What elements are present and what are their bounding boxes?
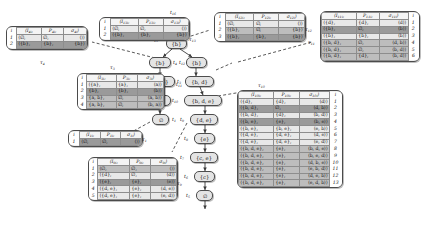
table-row[interactable]: ⟨{b},{b},⟨b⟩⟩3	[322, 33, 419, 40]
table-row[interactable]: 1⟨∅,∅,⟨⟩⟩	[89, 165, 177, 172]
table-row[interactable]: ⟨{b, d},∅,⟨d, b⟩⟩2	[239, 105, 342, 112]
tree-node-t6[interactable]: {c}	[194, 171, 215, 182]
table-caption-tau4: τ4	[40, 60, 45, 66]
header-P: P4i,	[42, 28, 64, 35]
table-row[interactable]: ⟨{b, d},{d},⟨b, d⟩⟩3	[239, 112, 342, 119]
table-row[interactable]: 3⟨{e},{e},⟨e⟩⟩	[89, 179, 177, 186]
table-row[interactable]: 3{a, b},∅,⟨a, b⟩⟩	[78, 95, 164, 102]
cell-P: {e},	[274, 119, 299, 126]
row-index: 3	[408, 33, 418, 40]
table-row[interactable]: ⟨{d},{d},⟨d⟩⟩1	[239, 98, 342, 105]
cell-sigma: {b}⟩	[64, 41, 87, 48]
cell-P: ∅,	[116, 95, 137, 102]
table-row[interactable]: 3⟨{b},{b},{b}⟩	[215, 34, 305, 41]
cell-I: ⟨{d},	[98, 172, 130, 179]
header-index: i	[89, 159, 98, 166]
table-tau11: ⟨I11i,P11i,σ11i⟩i⟨{d},{d},⟨d⟩⟩1⟨{b},∅,⟨b…	[320, 11, 420, 62]
cell-sigma: {b}⟩	[163, 32, 188, 39]
row-index: 2	[89, 172, 98, 179]
cell-I: ⟨{b},	[111, 32, 139, 39]
cell-P: {d},	[274, 112, 299, 119]
cell-I: ⟨{b, d, e},	[239, 153, 274, 160]
cell-sigma: ⟨d, e⟩⟩	[150, 186, 176, 193]
tree-node-t1[interactable]: ∅	[152, 114, 169, 125]
table-row[interactable]: ⟨{d, e},{d, e},⟨e, d⟩⟩7	[239, 139, 342, 146]
cell-I: ⟨{b, d, e},	[239, 166, 274, 173]
tree-node-t10[interactable]: {b, d, e}	[184, 95, 222, 106]
cell-I: ⟨{d, e},	[98, 186, 130, 193]
cell-I: ⟨∅,	[98, 165, 130, 172]
cell-sigma: ⟨b, d, e⟩⟩	[299, 146, 329, 153]
table-row[interactable]: ⟨{b, e},{e},⟨b, e⟩⟩4	[239, 119, 342, 126]
cell-sigma: ⟨b, e, d⟩⟩	[299, 153, 329, 160]
cell-I: ⟨{d, e},	[239, 139, 274, 146]
cell-sigma: ⟨⟩⟩	[150, 165, 176, 172]
cell-I: ⟨{b, e},	[239, 126, 274, 133]
cell-P: ∅,	[274, 105, 299, 112]
row-index: 4	[408, 40, 418, 47]
tree-node-t9[interactable]: {d, e}	[190, 114, 218, 125]
table-row[interactable]: 1⟨∅,∅,⟨⟩⟩	[215, 20, 305, 27]
row-index: 4	[329, 119, 341, 126]
table-tau3: i⟨I3i,P3i,σ3i⟩1⟨{a},{a},⟨a⟩⟩2{b},{b},⟨b⟩…	[77, 73, 165, 110]
table-row[interactable]: ⟨{b, d, e},{e},⟨b, d, e⟩⟩8	[239, 146, 342, 153]
tree-node-t11[interactable]: {b, d}	[185, 76, 214, 87]
tree-node-t1-label: ∅	[159, 117, 163, 123]
tree-node-t5[interactable]: ∅	[196, 190, 213, 201]
header-index: i	[100, 19, 111, 26]
table-row[interactable]: 4{a, b},∅,⟨b, a⟩⟩	[78, 102, 164, 109]
cell-I: ⟨{b},	[226, 34, 254, 41]
table-row[interactable]: ⟨{b, d, e},{e},⟨e, d, b⟩⟩13	[239, 180, 342, 187]
node-tag-t8: t8	[184, 136, 188, 142]
table-row[interactable]: ⟨{b, d},∅,⟨d, b⟩⟩4	[322, 40, 419, 47]
table-header-row: i⟨I4i,P4i,σ4i⟩	[7, 28, 87, 35]
row-index: 1	[78, 81, 87, 88]
table-row[interactable]: ⟨{b, d},∅,⟨b, d⟩⟩5	[322, 47, 419, 54]
table-row[interactable]: 4⟨{d, e},{e},⟨d, e⟩⟩	[89, 186, 177, 193]
header-P: P13i,	[138, 19, 163, 26]
row-index: 4	[78, 102, 87, 109]
table-row[interactable]: 1⟨∅,∅,⟨⟩⟩	[7, 34, 87, 41]
tree-node-t7[interactable]: {c, e}	[190, 152, 218, 163]
tree-node-t8[interactable]: {e}	[194, 133, 215, 144]
cell-P: {b},	[42, 41, 64, 48]
cell-sigma: ⟨e, b⟩⟩	[299, 126, 329, 133]
cell-P: {b},	[254, 34, 279, 41]
cell-I: ⟨{b, d},	[239, 112, 274, 119]
tree-node-t12[interactable]: {b}	[186, 57, 207, 68]
header-I: ⟨I13i,	[111, 19, 139, 26]
table-row[interactable]: 2⟨{b},{b},{b}⟩	[7, 41, 87, 48]
table-row[interactable]: ⟨{b},∅,⟨b⟩⟩2	[322, 26, 419, 33]
cell-P: ∅,	[101, 138, 121, 145]
cell-P: {d},	[357, 19, 379, 26]
table-row[interactable]: ⟨{b, d, e},{e},⟨d, b, e⟩⟩10	[239, 159, 342, 166]
table-row[interactable]: 2{b},{b},⟨b⟩⟩	[78, 88, 164, 95]
table-row[interactable]: ⟨{b, d, e},{e},⟨b, e, d⟩⟩9	[239, 153, 342, 160]
table-row[interactable]: 5⟨{d, e},{e},⟨e, d⟩⟩	[89, 193, 177, 200]
table-row[interactable]: 2⟨{b},∅,{b}⟩	[215, 27, 305, 34]
table-row[interactable]: 2⟨{d},∅,⟨d⟩⟩	[89, 172, 177, 179]
table-row[interactable]: ⟨{b, d, e},{e},⟨d, e, b⟩⟩12	[239, 173, 342, 180]
table-row[interactable]: ⟨{b, d, e},{e},⟨e, b, d⟩⟩11	[239, 166, 342, 173]
table-caption-tau1: τ1	[142, 137, 147, 143]
row-index: 9	[329, 153, 341, 160]
table-row[interactable]: 2⟨{b},{b},{b}⟩	[100, 32, 189, 39]
tree-node-t4[interactable]: {b}	[149, 57, 171, 68]
cell-I: ⟨{e},	[98, 179, 130, 186]
table-row[interactable]: 1⟨∅,∅,⟨⟩⟩	[69, 138, 142, 145]
header-sigma: σ12i⟩	[279, 14, 305, 21]
row-index: 5	[329, 126, 341, 133]
row-index: 12	[329, 173, 341, 180]
table-row[interactable]: ⟨{d, e},{d, e},⟨d, e⟩⟩6	[239, 132, 342, 139]
table-row[interactable]: ⟨{b, e},{b, e},⟨e, b⟩⟩5	[239, 126, 342, 133]
table-row[interactable]: ⟨{b, d},{d},⟨b, d⟩⟩6	[322, 53, 419, 60]
table-row[interactable]: 1⟨∅,∅,⟨⟩⟩	[100, 25, 189, 32]
row-index: 3	[89, 179, 98, 186]
table-row[interactable]: 1⟨{a},{a},⟨a⟩⟩	[78, 81, 164, 88]
row-index: 8	[329, 146, 341, 153]
table-caption-tau3: τ3	[110, 65, 115, 71]
table-row[interactable]: ⟨{d},{d},⟨d⟩⟩1	[322, 19, 419, 26]
cell-P: {e},	[274, 173, 299, 180]
table-header-row: i⟨I12i,P12i,σ12i⟩	[215, 14, 305, 21]
cell-I: {a, b},	[87, 102, 116, 109]
